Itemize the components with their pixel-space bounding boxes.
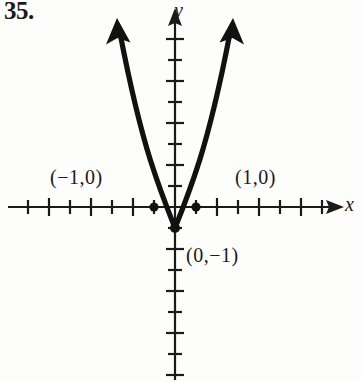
point-label-root-negative: (−1,0) bbox=[50, 167, 103, 187]
point-label-vertex: (0,−1) bbox=[186, 245, 239, 265]
curve-left-arrowhead bbox=[106, 18, 131, 45]
coordinate-plane-figure bbox=[0, 0, 362, 382]
point-root-negative bbox=[149, 202, 158, 211]
curve-right-arrowhead bbox=[220, 18, 245, 45]
point-root-positive bbox=[191, 202, 200, 211]
point-label-root-positive: (1,0) bbox=[235, 167, 276, 187]
y-axis-label: y bbox=[174, 0, 183, 20]
x-axis-label: x bbox=[345, 194, 354, 214]
point-vertex bbox=[170, 223, 180, 233]
figure-page: 35. bbox=[0, 0, 362, 382]
